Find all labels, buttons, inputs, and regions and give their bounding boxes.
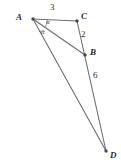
vertex-dot-B	[83, 53, 86, 56]
segment-AC	[33, 19, 77, 21]
vertex-dot-C	[75, 19, 78, 22]
vertex-dot-A	[31, 17, 34, 20]
length-label-AC: 3	[50, 3, 55, 12]
vertex-label-B: B	[90, 48, 96, 57]
segment-CD	[77, 21, 106, 151]
vertex-label-A: A	[16, 13, 22, 22]
diagram-canvas	[0, 0, 121, 164]
geometry-diagram: A C B D 3 2 6 α α	[0, 0, 121, 164]
length-label-CB: 2	[81, 30, 86, 39]
vertex-label-D: D	[110, 151, 117, 160]
vertex-label-C: C	[81, 12, 87, 21]
segment-AD	[33, 19, 106, 151]
vertex-dot-D	[104, 149, 107, 152]
segment-group	[33, 19, 106, 151]
angle-label-CAB: α	[46, 19, 50, 26]
angle-label-BAD: α	[41, 29, 45, 36]
length-label-BD: 6	[93, 71, 98, 80]
